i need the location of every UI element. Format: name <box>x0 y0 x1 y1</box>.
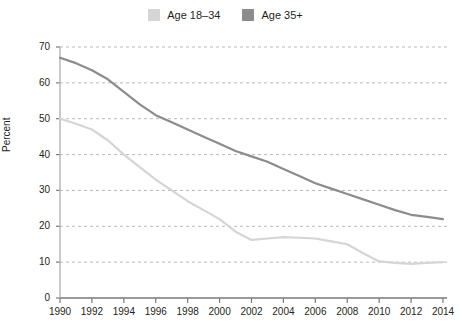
y-tick-label: 50 <box>28 114 50 124</box>
y-tick-label: 0 <box>28 293 50 303</box>
x-axis-ticks <box>60 298 443 303</box>
x-tick-label: 2014 <box>426 307 459 317</box>
x-tick-label: 1998 <box>171 307 205 317</box>
x-tick-label: 2006 <box>298 307 332 317</box>
x-tick-label: 1996 <box>139 307 173 317</box>
y-tick-label: 70 <box>28 42 50 52</box>
y-tick-label: 10 <box>28 257 50 267</box>
data-series <box>60 58 443 264</box>
x-tick-label: 1990 <box>43 307 77 317</box>
series-line-age-18-34 <box>60 119 443 264</box>
x-tick-label: 2008 <box>330 307 364 317</box>
x-tick-label: 1992 <box>75 307 109 317</box>
series-line-age-35 <box>60 58 443 219</box>
x-tick-label: 2012 <box>394 307 428 317</box>
y-tick-label: 60 <box>28 78 50 88</box>
gridlines <box>60 47 447 262</box>
y-tick-label: 20 <box>28 221 50 231</box>
y-tick-label: 40 <box>28 150 50 160</box>
y-tick-label: 30 <box>28 185 50 195</box>
x-tick-label: 2000 <box>203 307 237 317</box>
x-tick-label: 2002 <box>235 307 269 317</box>
x-tick-label: 2004 <box>266 307 300 317</box>
x-tick-label: 2010 <box>362 307 396 317</box>
x-tick-label: 1994 <box>107 307 141 317</box>
